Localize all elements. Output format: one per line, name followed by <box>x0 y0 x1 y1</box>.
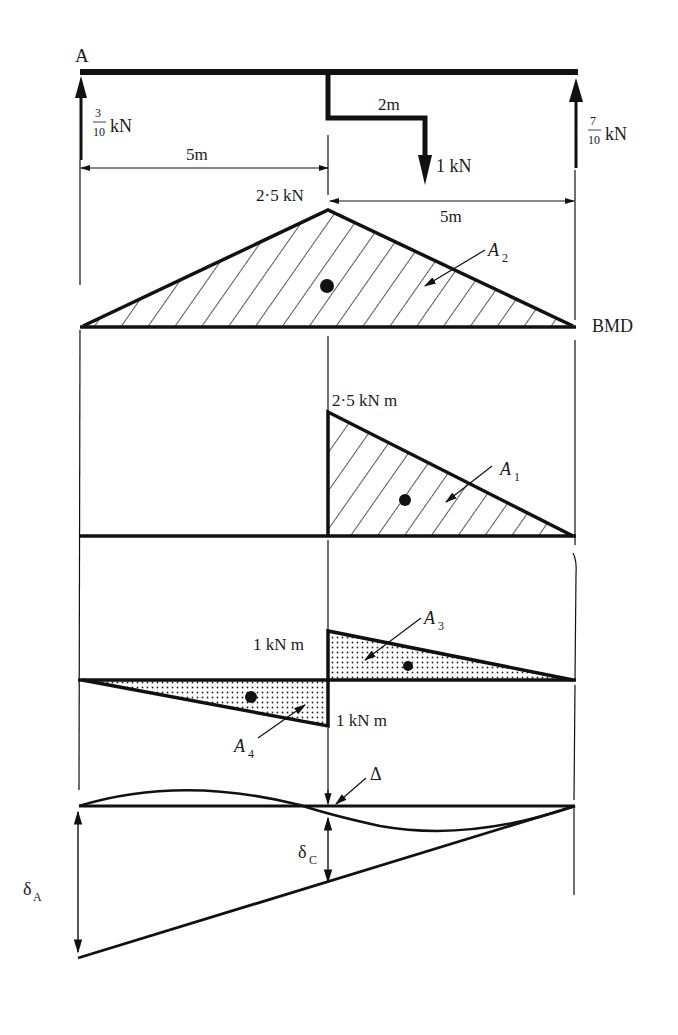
bmd-area-a2 <box>83 210 573 326</box>
a2-sub: 2 <box>502 251 508 265</box>
right-reaction-num: 7 <box>590 114 596 128</box>
a1-label: A <box>499 459 512 479</box>
delta-c-sub: C <box>309 853 317 867</box>
delta-a-sub: A <box>33 890 42 904</box>
tangent-line <box>78 806 575 958</box>
a4-centroid <box>245 691 257 703</box>
left-reaction-arrow-icon <box>75 76 87 98</box>
a1-peak-label: 2·5 kN m <box>332 391 397 410</box>
elastic-curve <box>79 790 575 831</box>
point-a-label: A <box>75 45 89 66</box>
a4-bottom-label: 1 kN m <box>336 711 387 730</box>
loaded-beam: A 2m 1 kN 3 10 kN 7 10 kN 5m 5m <box>75 45 627 226</box>
delta-c-label: δ <box>298 842 306 862</box>
load-arrow-icon <box>418 155 432 185</box>
left-span-label: 5m <box>186 145 208 164</box>
right-reaction-den: 10 <box>588 133 600 147</box>
beam-diagram: A 2m 1 kN 3 10 kN 7 10 kN 5m 5m <box>0 0 678 1035</box>
a3-top-label: 1 kN m <box>253 635 304 654</box>
left-reaction-den: 10 <box>93 125 105 139</box>
delta-label: Δ <box>370 764 382 784</box>
right-reaction-unit: kN <box>605 124 627 144</box>
load-label: 1 kN <box>436 156 472 176</box>
delta-leader <box>336 778 366 804</box>
moment-diagram-a1: 2·5 kN m A 1 <box>79 391 576 536</box>
a3-label: A <box>423 608 436 628</box>
bracket-offset-label: 2m <box>378 95 400 114</box>
a1-sub: 1 <box>514 470 520 484</box>
a2-label: A <box>487 240 500 260</box>
left-reaction-unit: kN <box>110 116 132 136</box>
a1-centroid <box>399 494 411 506</box>
a3-sub: 3 <box>438 619 444 633</box>
delta-a-label: δ <box>23 879 31 899</box>
right-reaction-arrow-icon <box>569 78 583 102</box>
load-bracket <box>328 72 425 160</box>
a4-sub: 4 <box>248 747 254 761</box>
a4-label: A <box>233 736 246 756</box>
bmd-label: BMD <box>592 316 633 336</box>
left-reaction-num: 3 <box>95 106 101 120</box>
right-span-label: 5m <box>440 207 462 226</box>
a3-centroid <box>403 661 413 671</box>
bmd-centroid <box>320 279 334 293</box>
bmd-diagram: 2·5 kN A 2 BMD <box>80 186 633 336</box>
moment-diagram-a3-a4: 1 kN m 1 kN m A 3 A 4 <box>78 608 576 761</box>
deflection-diagram: δ A δ C Δ <box>23 764 575 958</box>
bmd-peak-label: 2·5 kN <box>256 186 304 205</box>
